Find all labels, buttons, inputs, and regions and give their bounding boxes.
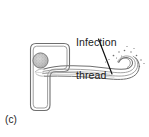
infection-thread-label-line1: Infection	[76, 37, 117, 48]
figure-illustration	[0, 0, 149, 137]
infection-thread-figure: Infection thread (c)	[0, 0, 149, 137]
root-hair-cell	[31, 44, 70, 111]
panel-label: (c)	[5, 114, 17, 125]
thread-hook-tip	[118, 58, 130, 67]
cell-outer-wall	[31, 44, 70, 111]
infection-thread-label-line2: thread	[76, 70, 117, 81]
nucleus-stipple	[33, 53, 47, 67]
infection-thread-label: Infection thread	[76, 15, 117, 103]
nucleus	[33, 53, 48, 68]
